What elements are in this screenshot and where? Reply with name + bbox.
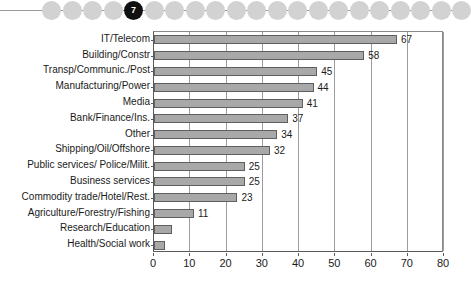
bar-value-label: 11: [198, 208, 208, 219]
bar[interactable]: [154, 146, 270, 155]
step-indicator-current[interactable]: 7: [124, 1, 143, 20]
step-indicator-bead[interactable]: [206, 1, 225, 20]
category-tick: [151, 229, 154, 230]
value-tick-label: 20: [219, 257, 231, 270]
bar[interactable]: [154, 130, 277, 139]
category-tick: [151, 182, 154, 183]
bar-value-label: 23: [241, 192, 252, 203]
category-tick: [151, 40, 154, 41]
category-label: Bank/Finance/Ins.: [0, 112, 150, 123]
category-label: Agriculture/Forestry/Fishing: [0, 207, 150, 218]
bar[interactable]: [154, 162, 245, 171]
value-tick: [298, 253, 299, 256]
category-tick: [151, 245, 154, 246]
bar-value-label: 25: [249, 161, 260, 172]
step-indicator-bead[interactable]: [411, 1, 430, 20]
value-tick-label: 60: [364, 257, 376, 270]
step-indicator-bead[interactable]: [432, 1, 451, 20]
bar-row[interactable]: 37: [154, 111, 442, 127]
step-indicator-bead[interactable]: [104, 1, 123, 20]
bar-value-label: 45: [321, 66, 332, 77]
category-label: Commodity trade/Hotel/Rest.: [0, 191, 150, 202]
value-tick: [443, 253, 444, 256]
value-tick: [334, 253, 335, 256]
bar-row[interactable]: 25: [154, 174, 442, 190]
bar[interactable]: [154, 225, 172, 234]
bar-row[interactable]: 34: [154, 127, 442, 143]
step-indicator-bead[interactable]: [350, 1, 369, 20]
value-tick-label: 30: [256, 257, 268, 270]
bar-row[interactable]: 45: [154, 64, 442, 80]
value-tick: [371, 253, 372, 256]
bar[interactable]: [154, 114, 288, 123]
bar-value-label: 58: [368, 50, 379, 61]
bar[interactable]: [154, 51, 364, 60]
bar[interactable]: [154, 209, 194, 218]
step-indicator-bead[interactable]: [145, 1, 164, 20]
step-indicator-bead[interactable]: [247, 1, 266, 20]
step-indicator-bead[interactable]: [186, 1, 205, 20]
step-indicator-bead[interactable]: [83, 1, 102, 20]
bar-value-label: 67: [401, 34, 412, 45]
value-tick: [226, 253, 227, 256]
category-tick: [151, 56, 154, 57]
value-tick-label: 70: [401, 257, 413, 270]
bar[interactable]: [154, 193, 237, 202]
category-tick: [151, 103, 154, 104]
bar-chart: IT/TelecomBuilding/ConstrTransp/Communic…: [0, 21, 460, 287]
category-tick: [151, 166, 154, 167]
bar-row[interactable]: 32: [154, 143, 442, 159]
bar-row[interactable]: 67: [154, 32, 442, 48]
bar-row[interactable]: 25: [154, 158, 442, 174]
category-label: Building/Constr: [0, 49, 150, 60]
step-indicator-bead[interactable]: [268, 1, 287, 20]
step-indicator-bead[interactable]: [165, 1, 184, 20]
bar[interactable]: [154, 35, 397, 44]
bar-row[interactable]: 44: [154, 79, 442, 95]
value-tick-label: 40: [292, 257, 304, 270]
bar-row[interactable]: 23: [154, 190, 442, 206]
value-tick: [189, 253, 190, 256]
step-indicator-bead[interactable]: [227, 1, 246, 20]
bar-row[interactable]: 11: [154, 206, 442, 222]
bar-row[interactable]: [154, 221, 442, 237]
category-tick: [151, 71, 154, 72]
step-indicator-bead[interactable]: [288, 1, 307, 20]
category-tick: [151, 87, 154, 88]
category-tick: [151, 135, 154, 136]
step-indicator-bead[interactable]: [329, 1, 348, 20]
value-tick-label: 0: [150, 257, 156, 270]
gridline-80: [443, 32, 444, 251]
category-label: Business services: [0, 175, 150, 186]
step-indicator-bead[interactable]: [370, 1, 389, 20]
bar-value-label: 37: [292, 113, 303, 124]
step-indicator-bead[interactable]: [63, 1, 82, 20]
category-tick: [151, 119, 154, 120]
bar-value-label: 41: [307, 98, 318, 109]
value-tick-label: 10: [183, 257, 195, 270]
value-axis: 01020304050607080: [153, 253, 443, 277]
value-tick: [262, 253, 263, 256]
step-indicator-bead[interactable]: [391, 1, 410, 20]
bar[interactable]: [154, 83, 314, 92]
value-tick: [407, 253, 408, 256]
bar[interactable]: [154, 177, 245, 186]
value-tick-label: 50: [328, 257, 340, 270]
bar-row[interactable]: 41: [154, 95, 442, 111]
bar[interactable]: [154, 99, 303, 108]
bar-value-label: 34: [281, 129, 292, 140]
category-label: Manufacturing/Power: [0, 80, 150, 91]
category-label: IT/Telecom: [0, 33, 150, 44]
bar[interactable]: [154, 67, 317, 76]
category-label: Shipping/Oil/Offshore: [0, 143, 150, 154]
step-indicator-bead[interactable]: [452, 1, 471, 20]
category-label: Transp/Communic./Post: [0, 64, 150, 75]
bar[interactable]: [154, 241, 165, 250]
category-label: Media: [0, 96, 150, 107]
step-indicator-bead[interactable]: [309, 1, 328, 20]
bar-row[interactable]: [154, 237, 442, 253]
step-indicator-bead[interactable]: [42, 1, 61, 20]
bar-row[interactable]: 58: [154, 48, 442, 64]
category-axis-labels: IT/TelecomBuilding/ConstrTransp/Communic…: [0, 31, 150, 252]
page-step-indicator: 7: [0, 0, 460, 21]
